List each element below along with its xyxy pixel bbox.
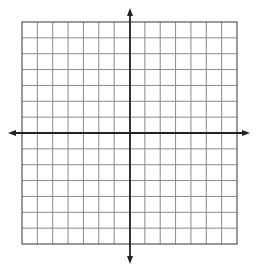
- x-axis-right-arrow-icon: [242, 130, 250, 136]
- y-axis-up-arrow-icon: [127, 8, 133, 16]
- y-axis-down-arrow-icon: [127, 256, 133, 264]
- coordinate-plane: [0, 0, 256, 271]
- x-axis-left-arrow-icon: [8, 130, 16, 136]
